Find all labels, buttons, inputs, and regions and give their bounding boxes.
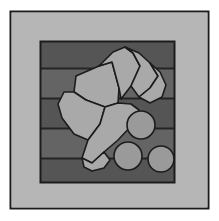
frame-band-right [175, 41, 207, 183]
illustration-canvas [0, 0, 219, 221]
circle-lower-left [114, 142, 142, 170]
circle-lower-right [148, 146, 174, 172]
frame-band-bottom [12, 183, 207, 207]
circle-upper-right [127, 111, 155, 139]
frame-band-left [12, 41, 40, 183]
frame-band-top [12, 13, 207, 41]
figure-root [0, 0, 219, 221]
